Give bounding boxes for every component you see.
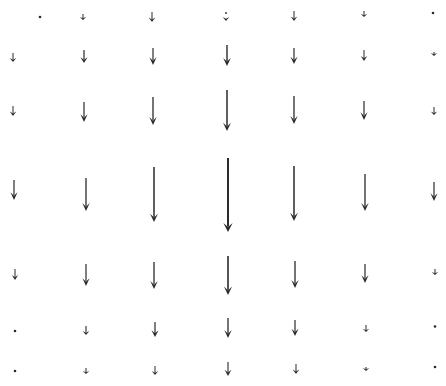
- arrow-down-icon: [80, 50, 87, 63]
- vector-field-plot: [0, 0, 446, 386]
- arrow-down-icon: [10, 53, 17, 62]
- arrow-down-icon: [83, 326, 90, 335]
- arrow-down-icon: [361, 11, 368, 17]
- arrow-down-icon: [361, 50, 368, 61]
- vector-dot: [434, 325, 437, 328]
- arrow-down-icon: [151, 322, 158, 337]
- arrow-down-icon: [224, 318, 231, 338]
- arrow-down-icon: [80, 102, 87, 122]
- arrow-down-icon: [10, 106, 17, 116]
- vector-dot: [39, 16, 42, 19]
- arrow-down-icon: [293, 364, 300, 374]
- arrow-down-icon: [360, 101, 367, 120]
- arrow-down-icon: [82, 264, 89, 286]
- arrow-down-icon: [223, 45, 231, 66]
- arrow-down-icon: [14, 370, 17, 373]
- arrow-down-icon: [291, 11, 298, 21]
- arrow-down-icon: [223, 158, 232, 232]
- arrow-down-icon: [83, 368, 90, 374]
- arrow-down-icon: [432, 269, 439, 275]
- arrow-head: [223, 17, 230, 21]
- arrow-down-icon: [39, 16, 42, 19]
- arrow-down-icon: [291, 261, 298, 288]
- vector-dot: [14, 330, 17, 333]
- arrow-down-icon: [290, 166, 298, 221]
- arrow-down-icon: [432, 12, 435, 15]
- vector-dot: [434, 366, 437, 369]
- arrow-down-icon: [223, 12, 230, 21]
- arrow-down-icon: [434, 366, 437, 369]
- arrow-down-icon: [434, 325, 437, 328]
- arrow-down-icon: [223, 90, 231, 131]
- arrow-down-icon: [430, 182, 437, 201]
- arrow-down-icon: [225, 362, 232, 376]
- arrow-down-icon: [80, 14, 87, 20]
- arrow-down-icon: [431, 52, 438, 56]
- arrow-down-icon: [150, 167, 158, 222]
- arrow-down-icon: [224, 256, 232, 295]
- arrow-down-icon: [12, 269, 19, 280]
- arrow-down-icon: [290, 96, 297, 124]
- arrow-down-icon: [152, 366, 159, 375]
- arrow-down-icon: [149, 97, 156, 125]
- arrow-down-icon: [361, 264, 368, 283]
- arrow-down-icon: [14, 330, 17, 333]
- arrow-down-icon: [361, 174, 368, 211]
- arrow-down-icon: [149, 48, 156, 65]
- arrow-down-icon: [363, 367, 370, 371]
- vector-dot: [432, 12, 435, 15]
- vector-dot: [14, 370, 17, 373]
- arrow-down-icon: [291, 320, 298, 336]
- arrow-down-icon: [431, 107, 438, 115]
- arrow-down-icon: [149, 12, 156, 22]
- arrow-down-icon: [10, 180, 17, 200]
- arrow-down-icon: [150, 262, 157, 289]
- arrow-down-icon: [82, 178, 89, 211]
- arrow-down-icon: [363, 325, 370, 332]
- arrow-down-icon: [290, 48, 297, 64]
